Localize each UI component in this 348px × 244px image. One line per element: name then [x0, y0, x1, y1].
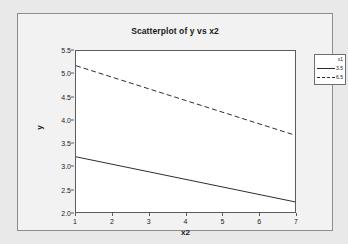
x-tick-mark [149, 213, 150, 216]
x-tick-mark [112, 213, 113, 216]
y-tick-label: 2.0 [61, 210, 71, 217]
x-tick-label: 3 [147, 218, 151, 225]
page-title: Scatterplot of y vs x2 [18, 26, 332, 36]
legend[interactable]: x1 3.56.5 [314, 54, 346, 85]
series-line-3.5 [76, 157, 295, 202]
legend-swatch-dashed [317, 77, 335, 78]
y-tick-label: 5.5 [61, 47, 71, 54]
legend-item-6.5[interactable]: 6.5 [315, 73, 345, 81]
y-tick-label: 3.0 [61, 163, 71, 170]
x-tick-label: 7 [294, 218, 298, 225]
x-tick-label: 5 [220, 218, 224, 225]
legend-title: x1 [338, 56, 343, 62]
legend-item-3.5[interactable]: 3.5 [315, 64, 345, 72]
legend-label: 6.5 [336, 74, 343, 80]
x-tick-mark [75, 213, 76, 216]
x-axis-label: x2 [75, 228, 296, 237]
y-axis-ticks: 2.02.53.03.54.04.55.05.5 [42, 50, 71, 213]
y-tick-mark [71, 73, 74, 74]
legend-swatch-solid [317, 68, 335, 69]
x-tick-mark [259, 213, 260, 216]
y-tick-label: 4.5 [61, 93, 71, 100]
x-tick-label: 4 [184, 218, 188, 225]
plot-lines [76, 51, 295, 212]
y-tick-mark [71, 213, 74, 214]
y-tick-label: 4.0 [61, 116, 71, 123]
y-tick-mark [71, 189, 74, 190]
x-tick-mark [296, 213, 297, 216]
x-tick-label: 1 [73, 218, 77, 225]
x-tick-label: 2 [110, 218, 114, 225]
y-tick-mark [71, 50, 74, 51]
y-tick-label: 2.5 [61, 186, 71, 193]
y-tick-mark [71, 119, 74, 120]
plot-area [75, 50, 296, 213]
graph-window: Scatterplot of y vs x2 y 2.02.53.03.54.0… [0, 0, 348, 244]
legend-label: 3.5 [336, 65, 343, 71]
y-tick-mark [71, 166, 74, 167]
x-tick-mark [222, 213, 223, 216]
y-tick-label: 3.5 [61, 140, 71, 147]
y-tick-label: 5.0 [61, 70, 71, 77]
x-axis-ticks: 1234567 [75, 213, 296, 229]
series-line-6.5 [76, 66, 295, 135]
graph-panel: Scatterplot of y vs x2 y 2.02.53.03.54.0… [17, 13, 333, 231]
x-tick-mark [186, 213, 187, 216]
x-tick-label: 6 [257, 218, 261, 225]
y-tick-mark [71, 96, 74, 97]
y-tick-mark [71, 143, 74, 144]
